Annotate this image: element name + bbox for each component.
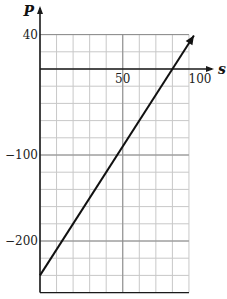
y-axis-arrow-icon xyxy=(37,6,43,14)
y-tick-label: 40 xyxy=(23,28,38,42)
line-chart: 40−100−20050100Ps xyxy=(0,0,227,299)
axes xyxy=(37,6,214,293)
line-arrow-icon xyxy=(186,35,194,45)
x-axis-label: s xyxy=(218,61,226,77)
y-tick-label: −100 xyxy=(5,148,38,162)
y-tick-label: −200 xyxy=(5,234,38,248)
x-tick-label: 50 xyxy=(115,72,130,86)
y-axis-label: P xyxy=(22,3,34,19)
x-tick-label: 100 xyxy=(189,72,212,86)
